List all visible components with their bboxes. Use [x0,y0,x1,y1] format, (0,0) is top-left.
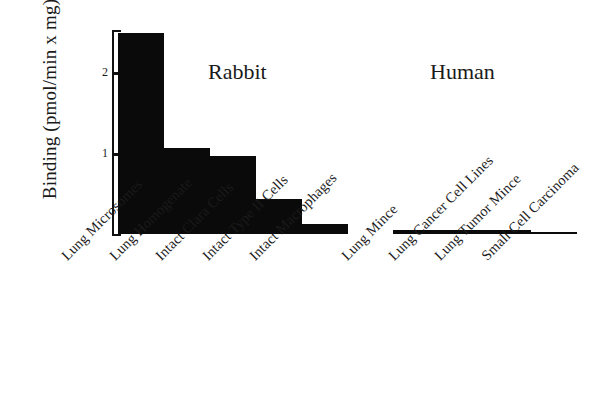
bar-4 [302,224,348,234]
bar-8 [531,232,577,235]
bar-chart-figure: Binding (pmol/min x mg) 2 1 Rabbit Human… [0,0,596,406]
